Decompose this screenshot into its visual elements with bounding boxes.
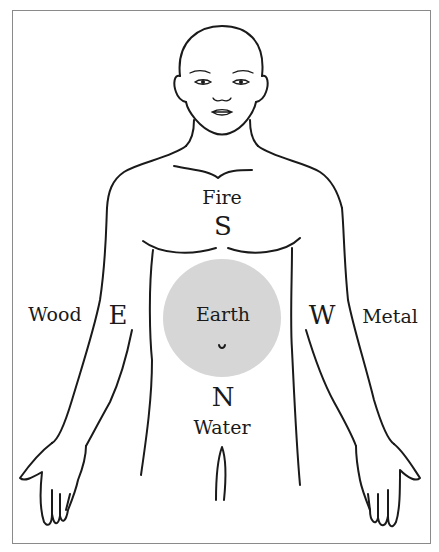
north-label: N	[212, 382, 235, 412]
left-arm-inner	[86, 330, 132, 446]
neck-right	[250, 120, 258, 146]
earth-label: Earth	[196, 303, 250, 325]
head-outline	[180, 26, 263, 76]
water-label: Water	[193, 416, 250, 438]
left-eyebrow	[190, 71, 210, 73]
neck-left	[186, 120, 194, 146]
metal-label: Metal	[362, 305, 418, 327]
groin-mark	[216, 447, 225, 500]
human-body-outline	[0, 0, 439, 552]
jaw	[186, 102, 256, 135]
left-pupil	[201, 80, 205, 84]
left-shoulder	[107, 146, 186, 208]
left-arm-outer	[52, 208, 107, 443]
torso-right	[291, 248, 300, 485]
right-pupil	[239, 80, 243, 84]
clavicle	[174, 166, 252, 178]
nose	[213, 98, 231, 101]
right-shoulder	[258, 146, 342, 208]
torso-left	[141, 250, 153, 475]
left-ear	[174, 76, 186, 102]
east-label: E	[109, 300, 128, 330]
wood-label: Wood	[28, 303, 81, 325]
south-label: S	[214, 211, 232, 241]
right-eyebrow	[233, 71, 253, 73]
mouth	[212, 110, 232, 115]
right-pec	[228, 238, 300, 253]
left-pec	[143, 241, 216, 253]
right-ear	[256, 76, 268, 102]
right-arm-inner	[306, 330, 356, 446]
fire-label: Fire	[202, 186, 242, 208]
west-label: W	[309, 300, 336, 330]
